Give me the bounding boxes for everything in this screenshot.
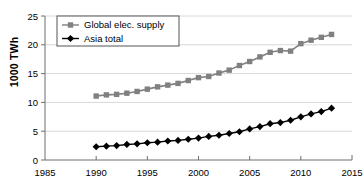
data-point [113, 142, 120, 149]
data-point [123, 141, 130, 148]
x-tick-label-2015: 2015 [341, 167, 362, 178]
data-point [298, 41, 303, 46]
data-point [165, 82, 170, 87]
data-point [103, 143, 110, 150]
data-point [288, 48, 293, 53]
data-point [154, 139, 161, 146]
data-point [196, 75, 201, 80]
data-point [155, 84, 160, 89]
data-point [175, 81, 180, 86]
x-tick-label-1990: 1990 [86, 167, 107, 178]
y-tick-group: 0510152025 [27, 11, 45, 166]
series-line [96, 108, 331, 147]
data-point [278, 48, 283, 53]
y-tick-label-25: 25 [27, 11, 38, 22]
data-point [215, 132, 222, 139]
data-point [308, 37, 313, 42]
data-point [114, 92, 119, 97]
data-point [277, 119, 284, 126]
data-point [267, 50, 272, 55]
data-point [134, 89, 139, 94]
data-point [145, 86, 150, 91]
data-point [205, 133, 212, 140]
data-point [164, 137, 171, 144]
data-point [216, 70, 221, 75]
y-tick-label-10: 10 [27, 97, 38, 108]
x-tick-label-1985: 1985 [34, 167, 55, 178]
x-tick-label-2010: 2010 [290, 167, 311, 178]
data-point [297, 113, 304, 120]
chart-container: 1000 TWh 0510152025 19851990199520002005… [0, 0, 363, 188]
data-point [328, 105, 335, 112]
data-point [93, 93, 98, 98]
x-tick-group: 1985199019952000200520102015 [34, 156, 362, 178]
data-point [318, 108, 325, 115]
data-point [247, 59, 252, 64]
data-point [256, 123, 263, 130]
series-layer [93, 32, 336, 151]
legend-label-1: Global elec. supply [84, 19, 165, 30]
data-point [144, 139, 151, 146]
chart-plot: 0510152025 1985199019952000200520102015 … [0, 0, 363, 188]
data-point [68, 22, 73, 27]
data-point [104, 92, 109, 97]
data-point [185, 136, 192, 143]
x-tick-label-1995: 1995 [137, 167, 158, 178]
data-point [186, 78, 191, 83]
legend-label-2: Asia total [84, 33, 123, 44]
x-tick-label-2000: 2000 [188, 167, 209, 178]
data-point [257, 54, 262, 59]
data-point [319, 35, 324, 40]
data-point [236, 128, 243, 135]
data-point [195, 135, 202, 142]
data-point [237, 63, 242, 68]
series-2 [93, 105, 336, 151]
y-tick-label-20: 20 [27, 39, 38, 50]
data-point [134, 140, 141, 147]
data-point [227, 67, 232, 72]
data-point [267, 120, 274, 127]
data-point [329, 32, 334, 37]
chart-legend: Global elec. supplyAsia total [57, 16, 179, 46]
data-point [287, 117, 294, 124]
data-point [206, 74, 211, 79]
y-tick-label-0: 0 [33, 155, 38, 166]
y-tick-label-15: 15 [27, 68, 38, 79]
x-tick-label-2005: 2005 [239, 167, 260, 178]
y-tick-label-5: 5 [33, 126, 38, 137]
data-point [93, 143, 100, 150]
data-point [174, 137, 181, 144]
data-point [124, 90, 129, 95]
data-point [307, 110, 314, 117]
